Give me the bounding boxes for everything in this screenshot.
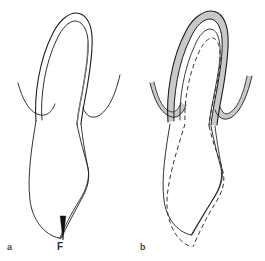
figure-root: a b F	[0, 0, 265, 261]
panel-b-body-left-wall	[163, 124, 191, 235]
figure-canvas	[0, 0, 265, 261]
panel-a-inner-loop	[42, 21, 89, 124]
panel-a-body-left-wall	[29, 121, 59, 238]
panel-b-dashed-body-left	[167, 124, 192, 247]
panel-a-group	[18, 13, 120, 240]
force-label: F	[57, 242, 63, 252]
panel-a-outer-loop	[36, 13, 93, 124]
panel-b-group	[150, 11, 252, 247]
panel-label-b: b	[140, 243, 146, 252]
panel-label-a: a	[7, 243, 12, 252]
